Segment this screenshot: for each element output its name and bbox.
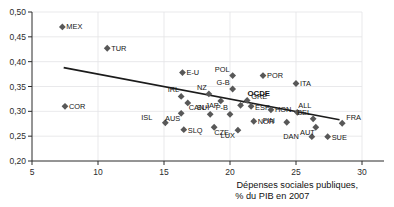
y-tick-label: 0,45 [9, 32, 26, 42]
y-tick-label: 0,30 [9, 106, 26, 116]
data-point-label: BEL [297, 108, 311, 117]
data-point-label: AUT [300, 128, 315, 137]
data-point-marker [104, 45, 111, 52]
data-point-label: G-B [216, 78, 229, 87]
data-point-label: IRL [168, 85, 180, 94]
x-axis-title-line1: Dépenses sociales publiques, [236, 180, 358, 190]
data-point-marker [235, 127, 242, 134]
x-tick-label: 20 [225, 167, 235, 177]
data-point-label: HON [275, 105, 291, 114]
y-tick-label: 0,25 [9, 131, 26, 141]
data-point-label: SLQ [188, 126, 203, 135]
data-point-marker [180, 126, 187, 133]
data-point-marker [59, 24, 66, 31]
data-point-marker [339, 120, 346, 127]
data-point-marker [250, 118, 257, 125]
data-point-label: AUS [165, 114, 180, 123]
data-point-label: FIN [263, 116, 275, 125]
data-point-marker [62, 103, 69, 110]
data-point-label: TUR [111, 44, 126, 53]
data-point-label: POL [215, 65, 230, 74]
data-point-label: ESP [255, 103, 270, 112]
data-point-marker [293, 80, 300, 87]
x-tick-label: 5 [30, 167, 35, 177]
data-point-label: SUE [332, 133, 347, 142]
y-tick-label: 0,35 [9, 82, 26, 92]
data-point-marker [283, 119, 290, 126]
data-point-label: P-B [216, 103, 228, 112]
data-point-marker [260, 72, 267, 79]
x-tick-label: 25 [291, 167, 301, 177]
chart-canvas: 0,200,250,300,350,400,450,5051015202530M… [0, 0, 394, 207]
data-point-label: MEX [66, 22, 82, 31]
y-tick-label: 0,40 [9, 57, 26, 67]
scatter-chart-figure: 0,200,250,300,350,400,450,5051015202530M… [0, 0, 394, 207]
data-point-label: LUX [221, 131, 235, 140]
data-point-label: POR [267, 71, 283, 80]
cropped-bottom-text [0, 202, 394, 207]
data-point-label: ISL [141, 113, 152, 122]
data-point-label: FRA [346, 113, 361, 122]
data-point-label: COR [69, 102, 85, 111]
y-tick-label: 0,20 [9, 156, 26, 166]
data-point-label: ITA [300, 79, 311, 88]
data-point-marker [179, 69, 186, 76]
data-point-label: E-U [186, 68, 199, 77]
x-tick-label: 10 [93, 167, 103, 177]
data-point-label: DAN [283, 132, 299, 141]
data-point-label: NZ [197, 83, 207, 92]
x-tick-label: 30 [357, 167, 367, 177]
data-point-marker [324, 133, 331, 140]
x-axis-title-line2: % du PIB en 2007 [235, 191, 309, 201]
x-tick-label: 15 [159, 167, 169, 177]
data-point-label: GRE [251, 92, 267, 101]
y-tick-label: 0,50 [9, 7, 26, 17]
